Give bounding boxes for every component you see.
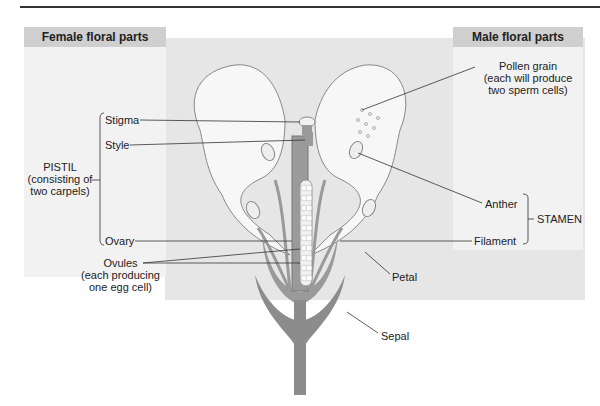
style-label: Style (105, 139, 129, 151)
pollen-grain-label: Pollen grain (each will produce two sper… (478, 60, 578, 96)
stigma-label: Stigma (105, 114, 139, 126)
ovules-label: Ovules (each producing one egg cell) (78, 257, 163, 293)
pistil-label: PISTIL (consisting of two carpels) (25, 161, 95, 197)
filament-label: Filament (474, 235, 516, 247)
anther-label: Anther (485, 198, 517, 210)
left-petal (194, 65, 290, 255)
stem (294, 300, 306, 395)
sepal-label: Sepal (381, 330, 409, 342)
stamen-label: STAMEN (537, 213, 582, 225)
petal-label: Petal (392, 271, 417, 283)
ovary-label: Ovary (105, 235, 134, 247)
right-petal (310, 65, 406, 255)
